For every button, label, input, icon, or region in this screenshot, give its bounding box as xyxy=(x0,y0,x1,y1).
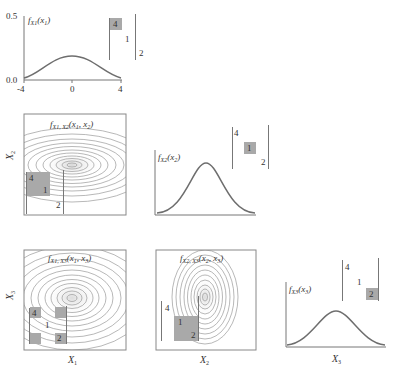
matrix-x3-4: 4 xyxy=(345,263,350,272)
f-x3-plot xyxy=(0,0,394,372)
x-axis-label-x3: X3 xyxy=(332,354,341,365)
f-x3-label: fX3(x3) xyxy=(289,285,311,295)
matrix-x3-1: 1 xyxy=(357,278,362,287)
matrix-x3-2: 2 xyxy=(369,290,374,299)
